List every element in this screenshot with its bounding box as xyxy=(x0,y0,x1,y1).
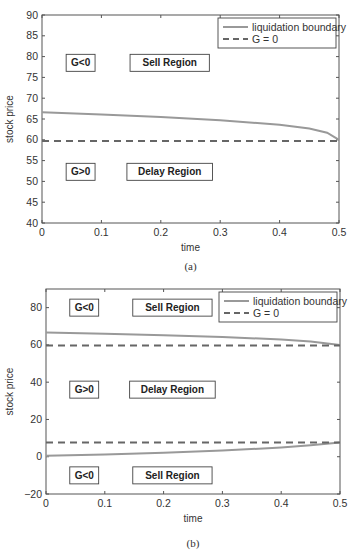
x-tick-label: 0 xyxy=(43,497,49,509)
legend-item: liquidation boundary xyxy=(253,295,348,307)
x-tick-label: 0.3 xyxy=(215,497,230,509)
region-label: G<0 xyxy=(71,57,91,68)
liquidation-boundary-line xyxy=(46,442,340,455)
legend-item: G = 0 xyxy=(252,33,278,45)
y-tick-label: 85 xyxy=(26,29,38,41)
y-tick-label: 50 xyxy=(26,175,38,187)
region-label: Delay Region xyxy=(138,166,201,177)
region-label: G>0 xyxy=(71,166,91,177)
region-label: Sell Region xyxy=(145,302,199,313)
region-label: Sell Region xyxy=(145,470,199,481)
x-tick-label: 0.2 xyxy=(156,497,171,509)
liquidation-boundary-line xyxy=(42,112,339,140)
figure: 00.10.20.30.40.54045505560657075808590ti… xyxy=(0,0,361,559)
y-axis-label: stock price xyxy=(4,95,15,143)
region-label: Delay Region xyxy=(141,384,204,395)
y-tick-label: 45 xyxy=(26,196,38,208)
x-axis-label: time xyxy=(181,242,200,253)
y-tick-label: 80 xyxy=(26,50,38,62)
region-label: G<0 xyxy=(75,302,95,313)
x-axis-label: time xyxy=(184,513,203,524)
y-tick-label: −20 xyxy=(24,488,42,500)
x-tick-label: 0.1 xyxy=(94,226,109,238)
chart-panel-b: 00.10.20.30.40.5−20020406080timestock pr… xyxy=(4,289,348,550)
region-label: G<0 xyxy=(75,470,95,481)
x-tick-label: 0.4 xyxy=(272,226,287,238)
x-tick-label: 0.5 xyxy=(332,226,347,238)
y-tick-label: 20 xyxy=(30,413,42,425)
y-tick-label: 75 xyxy=(26,71,38,83)
y-tick-label: 90 xyxy=(26,9,38,21)
region-label: G>0 xyxy=(75,384,95,395)
x-tick-label: 0.3 xyxy=(213,226,228,238)
x-tick-label: 0.4 xyxy=(274,497,289,509)
y-tick-label: 0 xyxy=(36,450,42,462)
y-tick-label: 70 xyxy=(26,92,38,104)
y-tick-label: 80 xyxy=(30,301,42,313)
x-tick-label: 0.2 xyxy=(153,226,168,238)
y-tick-label: 65 xyxy=(26,113,38,125)
x-tick-label: 0 xyxy=(39,226,45,238)
x-tick-label: 0.1 xyxy=(97,497,112,509)
y-axis-label: stock price xyxy=(4,367,15,415)
y-tick-label: 40 xyxy=(30,376,42,388)
region-label: Sell Region xyxy=(142,57,196,68)
y-tick-label: 60 xyxy=(30,338,42,350)
liquidation-boundary-line xyxy=(46,333,340,345)
x-tick-label: 0.5 xyxy=(333,497,348,509)
figure-caption: (b) xyxy=(187,537,200,550)
figure-caption: (a) xyxy=(184,260,197,273)
y-tick-label: 40 xyxy=(26,217,38,229)
chart-panel-a: 00.10.20.30.40.54045505560657075808590ti… xyxy=(4,9,347,274)
y-tick-label: 60 xyxy=(26,133,38,145)
legend-item: liquidation boundary xyxy=(252,21,347,33)
y-tick-label: 55 xyxy=(26,154,38,166)
legend-item: G = 0 xyxy=(253,307,279,319)
